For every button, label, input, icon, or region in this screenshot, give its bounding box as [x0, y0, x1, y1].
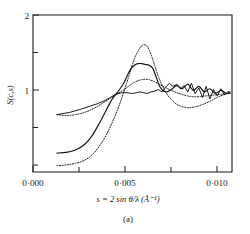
x-tick-label-0p010: 0·010	[206, 178, 228, 188]
series-curve-4-solid-noisy-experimental	[57, 83, 230, 114]
series-curve-3-dotted-low-broad	[57, 79, 230, 115]
panel-label: (a)	[123, 214, 133, 224]
structure-factor-chart: 2 1 0·000 0·005 0·010 s = 2 sin θ/λ (Å⁻¹…	[0, 0, 250, 234]
y-tick-label-1: 1	[24, 86, 29, 96]
x-tick-label-0p000: 0·000	[22, 178, 44, 188]
y-axis-ticks	[33, 15, 39, 165]
x-axis-title: s = 2 sin θ/λ (Å⁻¹)	[96, 194, 159, 204]
curve-group	[57, 45, 230, 166]
figure-container: 2 1 0·000 0·005 0·010 s = 2 sin θ/λ (Å⁻¹…	[0, 0, 250, 234]
y-axis-title: S(c,s)	[5, 85, 15, 104]
y-tick-label-2: 2	[24, 11, 29, 21]
x-tick-label-0p005: 0·005	[114, 178, 136, 188]
x-axis-ticks	[33, 166, 217, 172]
series-curve-1-dotted-tall-peak	[57, 45, 230, 166]
